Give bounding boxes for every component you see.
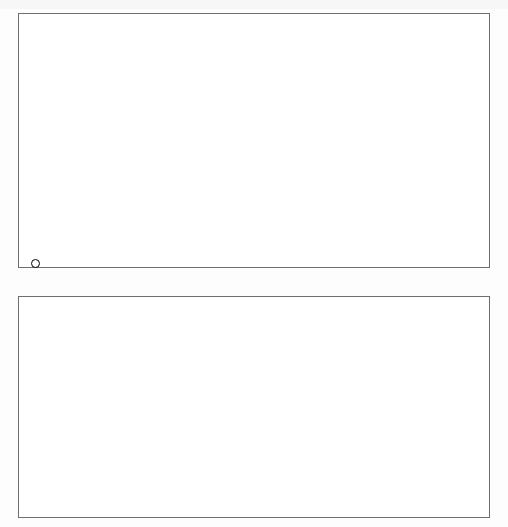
chart-panel-top: [18, 13, 490, 268]
legend-africa: [28, 258, 40, 268]
scan-edge-artifact: [0, 0, 508, 9]
scatter-plot-bottom: [19, 297, 489, 517]
figure-page: [0, 0, 508, 527]
chart-panel-bottom: [18, 296, 490, 518]
scatter-plot-top: [19, 14, 489, 267]
open-circle-icon: [31, 259, 40, 268]
